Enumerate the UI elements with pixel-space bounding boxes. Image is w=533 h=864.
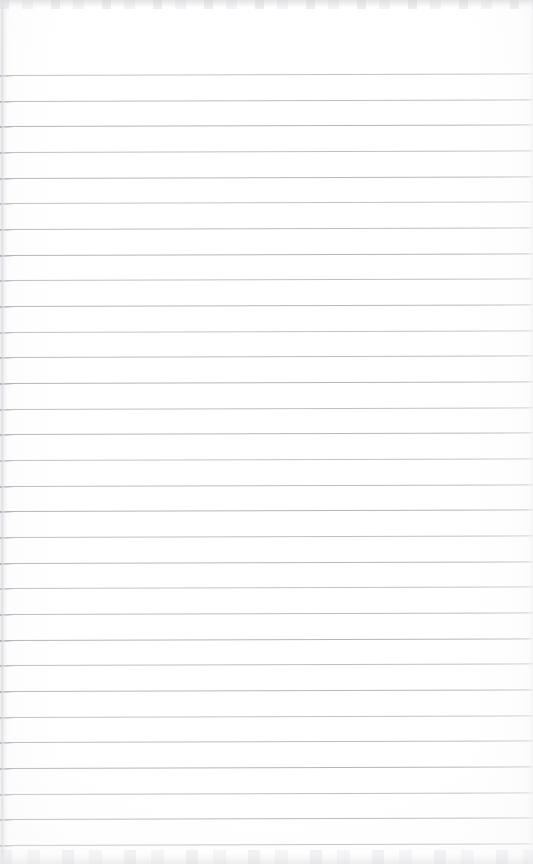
left-page-edge-shadow xyxy=(0,0,7,864)
page-writing-area xyxy=(14,60,519,850)
right-page-edge-tone xyxy=(527,0,533,864)
bottom-scan-artifact-band xyxy=(0,850,533,864)
top-scan-artifact-band xyxy=(0,0,533,9)
scanned-notebook-page xyxy=(0,0,533,864)
